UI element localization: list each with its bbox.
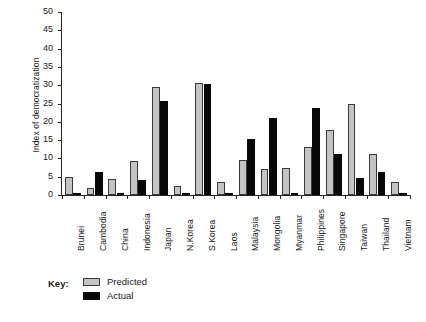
legend-title: Key:: [48, 278, 69, 289]
legend-label: Actual: [107, 290, 133, 301]
legend-swatch-actual: [83, 292, 100, 300]
bar-group: [87, 12, 103, 195]
x-tick-mark: [214, 195, 215, 199]
bar-predicted-china: [108, 179, 116, 195]
x-tick-mark: [345, 195, 346, 199]
y-tick-label: 50: [43, 6, 53, 16]
bar-predicted-brunei: [65, 177, 73, 195]
y-tick-mark: [58, 158, 62, 159]
y-tick-label: 20: [43, 116, 53, 126]
x-tick-mark: [258, 195, 259, 199]
y-tick-mark: [58, 140, 62, 141]
x-tick-mark: [410, 195, 411, 199]
bar-predicted-mongolia: [261, 169, 269, 195]
bar-group: [348, 12, 364, 195]
x-label-skorea: S.Korea: [207, 220, 217, 251]
y-tick-label: 15: [43, 134, 53, 144]
x-label-brunei: Brunei: [76, 226, 86, 251]
bar-predicted-skorea: [195, 83, 203, 195]
bar-actual-indonesia: [138, 180, 146, 195]
y-tick-mark: [58, 67, 62, 68]
bar-actual-mongolia: [269, 118, 277, 195]
bar-group: [326, 12, 342, 195]
bar-actual-china: [117, 193, 125, 195]
y-tick-label: 45: [43, 24, 53, 34]
bar-group: [152, 12, 168, 195]
y-tick-mark: [58, 104, 62, 105]
bar-predicted-indonesia: [130, 161, 138, 195]
bar-group: [217, 12, 233, 195]
bar-group: [65, 12, 81, 195]
bar-actual-laos: [225, 193, 233, 195]
bar-predicted-malaysia: [239, 160, 247, 196]
y-axis-title: Index of democratization: [31, 25, 41, 185]
legend-label: Predicted: [107, 276, 147, 287]
x-tick-mark: [301, 195, 302, 199]
y-tick-label: 10: [43, 152, 53, 162]
bar-predicted-singapore: [326, 130, 334, 196]
bar-group: [130, 12, 146, 195]
x-tick-mark: [388, 195, 389, 199]
y-tick-label: 0: [48, 189, 53, 199]
x-label-thailand: Thailand: [381, 218, 391, 251]
bar-group: [304, 12, 320, 195]
x-label-japan: Japan: [163, 227, 173, 251]
x-tick-mark: [236, 195, 237, 199]
bar-predicted-philippines: [304, 147, 312, 195]
x-label-malaysia: Malaysia: [250, 217, 260, 251]
x-tick-mark: [149, 195, 150, 199]
x-label-vietnam: Vietnam: [403, 219, 413, 251]
bar-actual-thailand: [378, 172, 386, 195]
x-tick-mark: [106, 195, 107, 199]
x-label-mongolia: Mongolia: [272, 216, 282, 251]
x-tick-mark: [193, 195, 194, 199]
bar-actual-myanmar: [291, 193, 299, 195]
bar-predicted-vietnam: [391, 182, 399, 195]
y-tick-label: 25: [43, 98, 53, 108]
bar-actual-taiwan: [356, 178, 364, 195]
bar-actual-vietnam: [399, 193, 407, 195]
y-tick-label: 30: [43, 79, 53, 89]
bar-actual-japan: [160, 101, 168, 195]
bar-predicted-japan: [152, 87, 160, 195]
x-label-singapore: Singapore: [337, 211, 347, 251]
legend-swatch-predicted: [83, 278, 100, 286]
x-label-laos: Laos: [229, 232, 239, 251]
x-tick-mark: [127, 195, 128, 199]
bar-predicted-thailand: [369, 154, 377, 195]
bar-actual-cambodia: [95, 172, 103, 195]
bar-actual-nkorea: [182, 193, 190, 195]
plot-area: 05101520253035404550: [62, 12, 410, 195]
y-tick-mark: [58, 30, 62, 31]
bar-actual-skorea: [204, 84, 212, 195]
x-tick-mark: [367, 195, 368, 199]
bar-group: [174, 12, 190, 195]
x-tick-mark: [84, 195, 85, 199]
y-tick-mark: [58, 122, 62, 123]
bar-actual-malaysia: [247, 139, 255, 195]
x-tick-mark: [62, 195, 63, 199]
x-label-indonesia: Indonesia: [142, 213, 152, 251]
x-label-cambodia: Cambodia: [98, 211, 108, 251]
x-tick-mark: [280, 195, 281, 199]
bar-predicted-nkorea: [174, 186, 182, 195]
bar-actual-philippines: [312, 108, 320, 195]
x-label-myanmar: Myanmar: [294, 215, 304, 251]
bar-predicted-cambodia: [87, 188, 95, 195]
bar-group: [369, 12, 385, 195]
bar-predicted-myanmar: [282, 168, 290, 195]
y-tick-mark: [58, 12, 62, 13]
x-label-philippines: Philippines: [316, 209, 326, 251]
bar-group: [239, 12, 255, 195]
y-tick-label: 35: [43, 61, 53, 71]
bar-group: [108, 12, 124, 195]
bar-group: [195, 12, 211, 195]
bar-group: [282, 12, 298, 195]
y-tick-mark: [58, 49, 62, 50]
x-tick-mark: [323, 195, 324, 199]
y-tick-mark: [58, 177, 62, 178]
democratization-bar-chart: Index of democratization 051015202530354…: [0, 0, 426, 322]
y-tick-mark: [58, 85, 62, 86]
bar-actual-singapore: [334, 154, 342, 195]
y-tick-label: 40: [43, 43, 53, 53]
